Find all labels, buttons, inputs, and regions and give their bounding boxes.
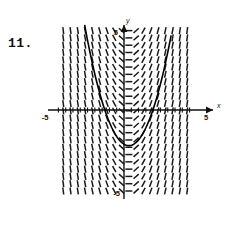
slope-segment xyxy=(84,64,85,71)
slope-segment xyxy=(150,64,152,71)
slope-segment xyxy=(70,137,71,144)
slope-segment xyxy=(157,100,159,107)
slope-segment xyxy=(165,158,167,165)
slope-segment xyxy=(77,49,78,56)
slope-segment xyxy=(142,100,145,106)
slope-segment xyxy=(179,64,180,71)
slope-segment xyxy=(142,108,145,114)
slope-segment xyxy=(99,158,101,165)
slope-segment xyxy=(157,158,159,165)
slope-segment xyxy=(84,86,85,93)
slope-segment xyxy=(165,107,167,114)
slope-segment xyxy=(172,115,173,122)
slope-segment xyxy=(84,107,85,114)
slope-segment xyxy=(84,151,85,158)
slope-segment xyxy=(142,49,145,55)
slope-segment xyxy=(142,159,145,165)
slope-segment xyxy=(179,71,180,78)
slope-segment xyxy=(134,101,139,106)
slope-segment xyxy=(157,137,159,144)
slope-segment xyxy=(99,64,101,71)
slope-segment xyxy=(187,166,188,173)
slope-segment xyxy=(77,78,78,85)
slope-segment xyxy=(179,137,180,144)
slope-segment xyxy=(142,151,145,157)
slope-segment xyxy=(63,137,64,144)
slope-segment xyxy=(150,93,152,100)
slope-segment xyxy=(134,130,139,135)
slope-segment xyxy=(172,137,173,144)
slope-segment xyxy=(77,188,78,195)
slope-segment xyxy=(84,42,85,49)
slope-segment xyxy=(157,78,159,85)
slope-segment xyxy=(63,166,64,173)
slope-segment xyxy=(63,158,64,165)
slope-segment xyxy=(99,27,101,34)
slope-segment xyxy=(106,93,108,100)
slope-segment xyxy=(106,180,108,187)
slope-segment xyxy=(165,34,167,41)
slope-segment xyxy=(70,158,71,165)
slope-segment xyxy=(187,188,188,195)
slope-segment xyxy=(172,129,173,136)
slope-segment xyxy=(106,129,108,136)
slope-field-segments xyxy=(63,27,188,194)
x-axis-label: x xyxy=(216,102,221,109)
slope-segment xyxy=(150,42,152,49)
slope-segment xyxy=(142,93,145,99)
slope-segment xyxy=(179,151,180,158)
slope-segment xyxy=(134,181,139,186)
slope-segment xyxy=(84,166,85,173)
slope-segment xyxy=(142,137,145,143)
slope-segment xyxy=(113,86,116,92)
slope-segment xyxy=(77,85,78,92)
slope-segment xyxy=(84,144,85,151)
slope-segment xyxy=(179,85,180,92)
slope-segment xyxy=(70,78,71,85)
slope-segment xyxy=(150,180,152,187)
slope-segment xyxy=(113,173,116,179)
slope-segment xyxy=(134,72,139,77)
slope-segment xyxy=(157,64,159,71)
x-axis-tick-label-right: 5 xyxy=(204,113,208,122)
slope-segment xyxy=(165,144,167,151)
slope-segment xyxy=(84,100,85,107)
slope-segment xyxy=(172,107,173,114)
slope-segment xyxy=(92,49,94,56)
slope-segment xyxy=(179,107,180,114)
slope-segment xyxy=(106,35,108,42)
slope-segment xyxy=(84,180,85,187)
slope-segment xyxy=(92,188,94,195)
slope-segment xyxy=(150,27,152,34)
slope-segment xyxy=(106,151,108,158)
slope-segment xyxy=(84,158,85,165)
slope-segment xyxy=(77,34,78,41)
slope-segment xyxy=(113,151,116,157)
slope-segment xyxy=(77,115,78,122)
slope-segment xyxy=(99,49,101,56)
slope-segment xyxy=(172,34,173,41)
slope-segment xyxy=(99,188,101,195)
slope-segment xyxy=(134,50,139,55)
slope-segment xyxy=(187,129,188,136)
slope-segment xyxy=(99,166,101,173)
slope-segment xyxy=(106,122,108,129)
slope-segment xyxy=(172,49,173,56)
slope-segment xyxy=(172,122,173,129)
slope-segment xyxy=(187,42,188,49)
slope-segment xyxy=(70,122,71,129)
slope-segment xyxy=(172,180,173,187)
slope-segment xyxy=(77,122,78,129)
slope-segment xyxy=(187,122,188,129)
slope-segment xyxy=(134,87,139,92)
slope-segment xyxy=(142,144,145,150)
slope-segment xyxy=(172,151,173,158)
slope-segment xyxy=(113,71,116,77)
slope-segment xyxy=(92,71,94,78)
slope-segment xyxy=(106,173,108,180)
slope-segment xyxy=(187,49,188,56)
slope-segment xyxy=(165,188,167,195)
slope-segment xyxy=(77,93,78,100)
slope-segment xyxy=(99,78,101,85)
slope-segment xyxy=(179,166,180,173)
